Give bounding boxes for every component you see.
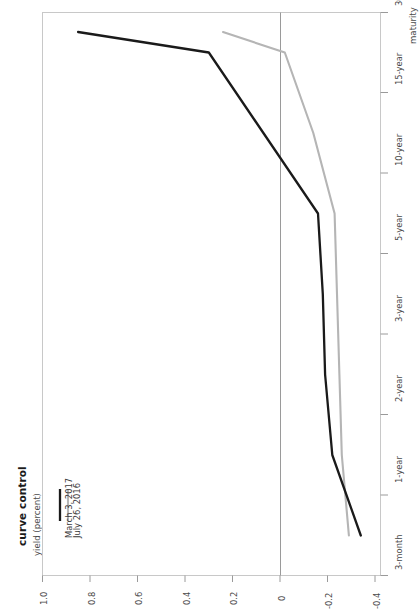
plot-frame (43, 13, 381, 576)
y-axis-ticks (43, 576, 376, 583)
x-tick-label-10-year: 10-year (394, 134, 404, 166)
y-tick-label-7: -0.2 (324, 593, 334, 609)
x-tick-label-30-year: 30-year (394, 0, 404, 6)
x-tick-label-3-month: 3-month (394, 534, 404, 570)
plot-area (0, 0, 419, 612)
y-tick-label-1: 1.0 (39, 592, 49, 605)
x-tick-label-5-year: 5-year (394, 214, 404, 241)
y-tick-label-6: 0 (277, 596, 287, 601)
series-line-march-3-2017 (78, 32, 361, 536)
legend-label-july-26-2016: July 26, 2016 (72, 483, 82, 538)
x-tick-label-3-year: 3-year (394, 295, 404, 322)
x-tick-label-15-year: 15-year (394, 53, 404, 85)
x-tick-label-1-year: 1-year (394, 456, 404, 483)
x-axis-ticks (381, 13, 389, 576)
y-tick-label-2: 0.8 (87, 592, 97, 605)
chart-figure: curve control yield (percent) maturity (0, 0, 419, 612)
y-tick-label-3: 0.6 (134, 592, 144, 605)
y-tick-label-5: 0.2 (229, 592, 239, 605)
y-tick-label-4: 0.4 (182, 592, 192, 605)
x-tick-label-2-year: 2-year (394, 375, 404, 402)
series-line-july-26-2016 (223, 32, 349, 536)
y-tick-label-8: -0.4 (372, 593, 382, 609)
